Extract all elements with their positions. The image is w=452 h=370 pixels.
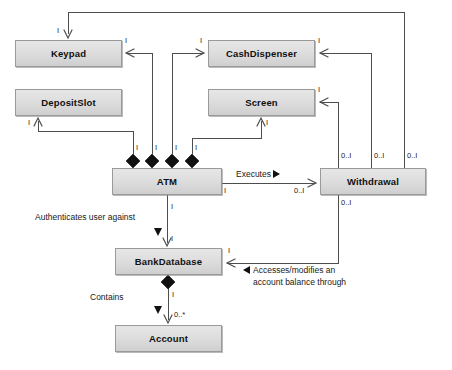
class-box-cashdispenser[interactable]: CashDispenser bbox=[208, 40, 315, 67]
association-text-accesses-line1: Accesses/modifies an bbox=[253, 265, 335, 275]
class-box-account[interactable]: Account bbox=[115, 325, 222, 352]
association-label-contains: Contains bbox=[90, 292, 124, 302]
multiplicity-screen-bottom: I bbox=[266, 118, 268, 127]
class-box-keypad[interactable]: Keypad bbox=[15, 40, 122, 67]
association-text-executes: Executes bbox=[236, 169, 271, 179]
association-label-executes: Executes bbox=[236, 169, 280, 179]
multiplicity-bankdatabase-contains: I bbox=[172, 290, 174, 299]
class-name-depositslot: DepositSlot bbox=[41, 97, 95, 108]
composition-diamond-screen bbox=[185, 154, 199, 168]
composition-diamond-cashdispenser bbox=[165, 154, 179, 168]
triangle-down-icon-contains bbox=[154, 306, 162, 314]
multiplicity-atm-executes: I bbox=[224, 186, 226, 195]
class-name-account: Account bbox=[149, 333, 188, 344]
edge-accesses-modifies bbox=[227, 195, 338, 263]
multiplicity-atm-composition-1: I bbox=[136, 143, 138, 152]
multiplicity-atm-composition-4: I bbox=[195, 143, 197, 152]
multiplicity-screen-right: I bbox=[318, 85, 320, 94]
edge-withdrawal-screen bbox=[320, 102, 338, 168]
multiplicity-keypad-top: I bbox=[57, 26, 59, 35]
association-text-accesses-line2: account balance through bbox=[253, 277, 346, 287]
class-box-withdrawal[interactable]: Withdrawal bbox=[320, 168, 426, 195]
multiplicity-account-contains: 0..* bbox=[174, 310, 185, 319]
edge-atm-cashdispenser bbox=[172, 53, 203, 154]
multiplicity-withdrawal-executes: 0..I bbox=[294, 186, 304, 195]
multiplicity-withdrawal-top-3: 0..I bbox=[407, 151, 417, 160]
multiplicity-keypad-right: I bbox=[125, 36, 127, 45]
edge-atm-screen bbox=[192, 121, 261, 154]
multiplicity-bankdatabase-accesses: I bbox=[228, 246, 230, 255]
edge-atm-depositslot bbox=[38, 121, 133, 154]
class-name-cashdispenser: CashDispenser bbox=[226, 48, 297, 59]
multiplicity-atm-authenticates: I bbox=[171, 202, 173, 211]
multiplicity-cashdispenser-left: I bbox=[200, 36, 202, 45]
association-label-authenticates: Authenticates user against bbox=[35, 212, 135, 222]
association-text-contains: Contains bbox=[90, 292, 124, 302]
class-box-bankdatabase[interactable]: BankDatabase bbox=[115, 248, 222, 275]
class-name-withdrawal: Withdrawal bbox=[347, 176, 399, 187]
edge-atm-keypad bbox=[127, 53, 152, 154]
association-text-accesses-line2-row: account balance through bbox=[243, 276, 346, 288]
class-name-bankdatabase: BankDatabase bbox=[135, 256, 202, 267]
multiplicity-atm-composition-3: I bbox=[175, 143, 177, 152]
composition-diamond-depositslot bbox=[126, 154, 140, 168]
class-name-keypad: Keypad bbox=[51, 48, 86, 59]
association-accesses-line1-row: Accesses/modifies an bbox=[243, 264, 346, 276]
association-label-accesses-modifies: Accesses/modifies an account balance thr… bbox=[243, 264, 346, 288]
multiplicity-withdrawal-bottom: 0..I bbox=[341, 198, 351, 207]
multiplicity-bankdatabase-authenticates: I bbox=[171, 234, 173, 243]
multiplicity-withdrawal-top-1: 0..I bbox=[341, 151, 351, 160]
class-box-screen[interactable]: Screen bbox=[208, 89, 315, 116]
class-box-depositslot[interactable]: DepositSlot bbox=[15, 89, 122, 116]
triangle-down-icon-authenticates bbox=[154, 228, 162, 236]
composition-diamond-account bbox=[161, 275, 175, 289]
association-text-authenticates: Authenticates user against bbox=[35, 212, 135, 222]
class-name-screen: Screen bbox=[245, 97, 278, 108]
multiplicity-atm-composition-2: I bbox=[155, 143, 157, 152]
triangle-right-icon bbox=[273, 170, 280, 178]
uml-class-diagram: Keypad CashDispenser DepositSlot Screen … bbox=[0, 0, 452, 370]
multiplicity-withdrawal-top-2: 0..I bbox=[374, 151, 384, 160]
class-box-atm[interactable]: ATM bbox=[112, 168, 222, 195]
class-name-atm: ATM bbox=[157, 176, 177, 187]
multiplicity-depositslot-bottom: I bbox=[28, 118, 30, 127]
composition-diamond-keypad bbox=[145, 154, 159, 168]
multiplicity-cashdispenser-right: I bbox=[318, 36, 320, 45]
triangle-left-icon bbox=[243, 266, 250, 274]
